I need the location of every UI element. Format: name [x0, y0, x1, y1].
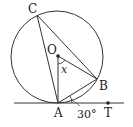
- label-C: C: [28, 2, 37, 16]
- angle-30-label: 30°: [77, 108, 97, 121]
- point-T: [106, 101, 110, 105]
- segment-CA: [37, 15, 58, 103]
- label-O: O: [47, 43, 57, 57]
- label-B: B: [99, 79, 108, 93]
- geometry-diagram: C O B A T x 30°: [0, 0, 133, 127]
- segment-AB: [58, 79, 97, 103]
- label-A: A: [53, 106, 63, 120]
- angle-x-label: x: [61, 63, 68, 76]
- label-T: T: [104, 106, 112, 120]
